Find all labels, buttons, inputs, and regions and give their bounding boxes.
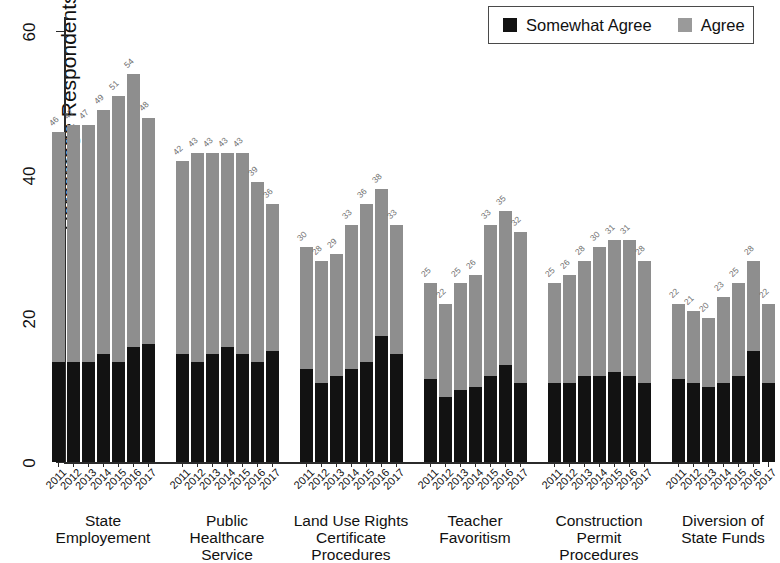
y-tick-label: 0 [20,443,40,483]
bar-segment-somewhat-agree [142,344,155,462]
bar-segment-agree [702,318,715,386]
y-tick-label: 20 [20,299,40,339]
stacked-bar[interactable] [266,204,279,462]
stacked-bar[interactable] [548,283,561,462]
legend-item-agree: Agree [678,16,745,35]
stacked-bar[interactable] [375,189,388,462]
bar-segment-agree [251,182,264,361]
bar-segment-somewhat-agree [608,372,621,462]
bar-segment-agree [548,283,561,383]
stacked-bar[interactable] [82,125,95,462]
stacked-bar[interactable] [236,153,249,462]
stacked-bar[interactable] [127,74,140,462]
x-axis-line [64,462,760,464]
bar-segment-somewhat-agree [563,383,576,462]
legend-label-agree: Agree [701,16,745,35]
bar-segment-agree [142,118,155,344]
bar-segment-agree [127,74,140,347]
bar-value-label: 42 [170,143,184,157]
stacked-bar[interactable] [454,283,467,462]
bar-segment-somewhat-agree [206,354,219,462]
bar-segment-somewhat-agree [732,376,745,462]
group-caption-line: Diversion of [643,512,780,529]
bar-segment-agree [732,283,745,376]
stacked-bar[interactable] [593,247,606,462]
bar-value-label: 31 [617,222,631,236]
bar-group: 25222526333532 [424,17,527,462]
bar-segment-agree [191,153,204,361]
bar-segment-agree [390,225,403,354]
stacked-bar[interactable] [514,232,527,462]
bar-segment-agree [236,153,249,354]
stacked-bar[interactable] [469,275,482,462]
stacked-bar[interactable] [732,283,745,462]
stacked-bar[interactable] [439,304,452,462]
stacked-bar[interactable] [563,275,576,462]
bar-segment-agree [221,153,234,347]
bar-segment-agree [176,161,189,355]
bar-segment-agree [300,247,313,369]
stacked-bar[interactable] [191,153,204,462]
stacked-bar[interactable] [251,182,264,462]
bar-segment-somewhat-agree [578,376,591,462]
stacked-bar[interactable] [345,225,358,462]
bar-segment-somewhat-agree [127,347,140,462]
y-tick-label: 40 [20,156,40,196]
stacked-bar[interactable] [52,132,65,462]
bar-value-label: 47 [76,107,90,121]
bar-value-label: 29 [324,236,338,250]
stacked-bar[interactable] [578,261,591,462]
stacked-bar[interactable] [623,240,636,463]
stacked-bar[interactable] [390,225,403,462]
stacked-bar[interactable] [221,153,234,462]
stacked-bar[interactable] [484,225,497,462]
bar-segment-agree [608,240,621,373]
bar-segment-somewhat-agree [747,351,760,462]
bar-segment-somewhat-agree [687,383,700,462]
stacked-bar[interactable] [762,304,775,462]
bar-segment-somewhat-agree [638,383,651,462]
legend-swatch-icon-agree [678,18,692,32]
stacked-bar[interactable] [300,247,313,462]
bar-segment-somewhat-agree [375,336,388,462]
stacked-bar[interactable] [672,304,685,462]
stacked-bar[interactable] [206,153,219,462]
bar-value-label: 30 [587,229,601,243]
stacked-bar[interactable] [687,311,700,462]
stacked-bar[interactable] [176,161,189,462]
stacked-bar[interactable] [702,318,715,462]
stacked-bar[interactable] [97,110,110,462]
stacked-bar[interactable] [142,117,155,462]
bar-segment-somewhat-agree [484,376,497,462]
bar-value-label: 26 [463,258,477,272]
stacked-bar[interactable] [360,204,373,462]
bar-segment-agree [315,261,328,383]
bar-value-label: 43 [215,136,229,150]
stacked-bar[interactable] [608,240,621,463]
bar-segment-agree [67,125,80,362]
bar-segment-agree [206,153,219,354]
bar-value-label: 28 [572,243,586,257]
stacked-bar[interactable] [67,125,80,462]
bar-value-label: 28 [741,243,755,257]
group-caption-line: State Funds [643,529,780,546]
stacked-bar[interactable] [424,283,437,462]
bar-segment-somewhat-agree [315,383,328,462]
bar-segment-agree [330,254,343,376]
bar-segment-somewhat-agree [236,354,249,462]
stacked-bar[interactable] [717,297,730,462]
stacked-bar[interactable] [330,254,343,462]
bar-segment-somewhat-agree [548,383,561,462]
bar-group: 42434343433936 [176,17,279,462]
stacked-bar[interactable] [638,261,651,462]
stacked-bar[interactable] [112,96,125,462]
bar-segment-somewhat-agree [702,387,715,462]
bar-segment-agree [360,204,373,362]
bar-segment-somewhat-agree [67,362,80,462]
bar-segment-agree [563,275,576,383]
bar-segment-somewhat-agree [300,369,313,462]
stacked-bar[interactable] [499,211,512,462]
stacked-bar[interactable] [315,261,328,462]
bar-value-label: 33 [339,207,353,221]
